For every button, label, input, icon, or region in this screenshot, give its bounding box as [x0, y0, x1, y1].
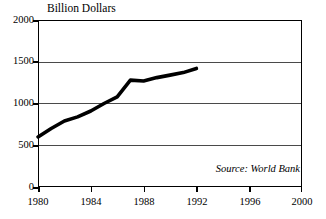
y-tick-label-1500: 1500	[0, 56, 34, 67]
x-tick-mark-1988	[144, 186, 146, 192]
y-axis: 2000 1500 1000 500 0	[0, 0, 34, 219]
x-tick-label-1984: 1984	[69, 196, 113, 207]
chart-title: Billion Dollars	[47, 2, 116, 15]
source-note: Source: World Bank	[216, 163, 300, 175]
x-tick-mark-2000	[301, 186, 303, 192]
x-tick-label-1980: 1980	[16, 196, 60, 207]
x-tick-label-1996: 1996	[228, 196, 272, 207]
y-tick-label-0: 0	[0, 182, 34, 193]
y-tick-label-2000: 2000	[0, 15, 34, 26]
y-tick-label-500: 500	[0, 140, 34, 151]
x-tick-mark-1996	[249, 186, 251, 192]
y-tick-label-1000: 1000	[0, 98, 34, 109]
x-tick-label-2000: 2000	[280, 196, 324, 207]
x-tick-mark-1992	[196, 186, 198, 192]
data-series-line	[38, 20, 302, 187]
x-tick-label-1988: 1988	[122, 196, 166, 207]
chart-figure: Billion Dollars 2000 1500 1000 500 0 198…	[0, 0, 326, 219]
x-tick-label-1992: 1992	[175, 196, 219, 207]
x-tick-mark-1984	[91, 186, 93, 192]
x-tick-mark-1980	[38, 186, 40, 192]
